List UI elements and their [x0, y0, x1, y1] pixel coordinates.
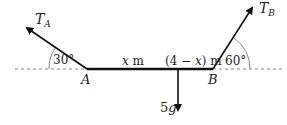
angle-30-label: 30°	[53, 53, 74, 67]
segment-right-label: (4 − x) m	[165, 54, 222, 68]
beam-diagram: TA 30° A TB 60° B x m (4 − x) m 5g	[0, 0, 287, 125]
tension-b-label: TB	[259, 0, 275, 18]
weight-label: 5g	[160, 100, 177, 115]
point-a-label: A	[80, 72, 90, 87]
segment-left-label: x m	[122, 54, 145, 68]
point-b-label: B	[207, 72, 218, 87]
angle-60-label: 60°	[225, 54, 246, 68]
tension-a-label: TA	[35, 11, 51, 29]
